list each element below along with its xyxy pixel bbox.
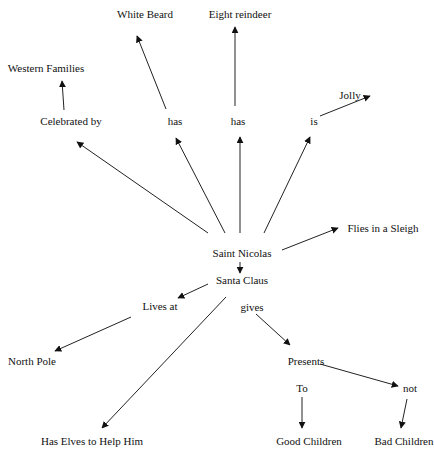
arrow-gives-to-presents bbox=[256, 314, 290, 345]
arrow-santa_claus-to-has_elves bbox=[102, 297, 226, 428]
node-flies-in-sleigh: Flies in a Sleigh bbox=[347, 222, 418, 235]
arrow-has_1-to-white_beard bbox=[137, 36, 166, 109]
node-eight-reindeer: Eight reindeer bbox=[209, 8, 272, 21]
node-western-families: Western Families bbox=[8, 62, 84, 75]
node-white-beard: White Beard bbox=[117, 8, 173, 21]
arrow-not-to-bad_children bbox=[401, 399, 407, 428]
link-label-lives-at: Lives at bbox=[142, 300, 177, 313]
node-presents: Presents bbox=[288, 355, 325, 368]
node-jolly: Jolly bbox=[339, 89, 360, 102]
link-label-celebrated-by: Celebrated by bbox=[40, 115, 101, 128]
node-has-elves: Has Elves to Help Him bbox=[41, 435, 143, 448]
node-santa-claus: Santa Claus bbox=[216, 274, 268, 287]
concept-map-canvas: White Beard Eight reindeer Western Famil… bbox=[0, 0, 434, 453]
arrow-saint_nicolas-to-flies_in_sleigh bbox=[282, 228, 338, 250]
arrow-saint_nicolas-to-is bbox=[264, 137, 310, 233]
node-saint-nicolas: Saint Nicolas bbox=[213, 247, 272, 260]
arrow-saint_nicolas-to-celebrated_by bbox=[77, 142, 208, 233]
node-north-pole: North Pole bbox=[8, 355, 56, 368]
arrow-lives_at-to-north_pole bbox=[55, 317, 131, 351]
link-label-to: To bbox=[296, 382, 307, 395]
arrow-presents-to-not bbox=[320, 364, 398, 386]
arrow-santa_claus-to-lives_at bbox=[178, 284, 208, 298]
link-label-is: is bbox=[310, 115, 317, 128]
link-label-has-white-beard: has bbox=[168, 115, 183, 128]
link-label-not: not bbox=[403, 382, 417, 395]
arrow-saint_nicolas-to-has_1 bbox=[176, 138, 225, 233]
node-good-children: Good Children bbox=[276, 435, 342, 448]
arrow-celebrated_by-to-western_families bbox=[62, 81, 64, 110]
link-label-has-reindeer: has bbox=[231, 115, 246, 128]
node-bad-children: Bad Children bbox=[375, 435, 434, 448]
link-label-gives: gives bbox=[240, 301, 263, 314]
